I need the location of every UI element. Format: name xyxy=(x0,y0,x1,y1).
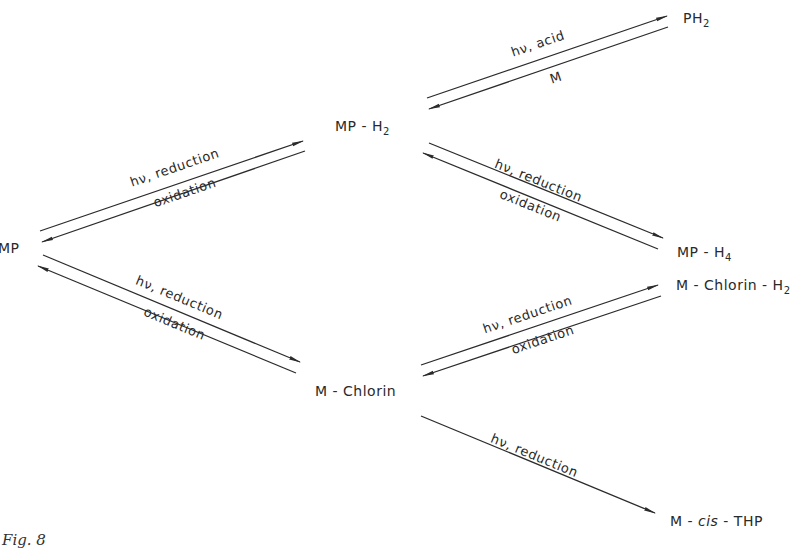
figure-caption: Fig. 8 xyxy=(2,531,46,549)
arrow-mp-to-mph2 xyxy=(40,141,303,231)
arrow-mchlorin-to-mchlorinh2 xyxy=(421,285,658,365)
node-m-chlorin-h2: M - Chlorin - H2 xyxy=(676,277,791,293)
node-m-chlorin: M - Chlorin xyxy=(315,383,396,399)
node-m-cis-thp: M - cis - THP xyxy=(670,513,763,529)
node-mp-h4: MP - H4 xyxy=(677,244,732,260)
node-mp-label: MP xyxy=(0,240,20,256)
node-mp-h2: MP - H2 xyxy=(335,118,390,134)
arrow-mph2-to-ph2 xyxy=(427,16,667,98)
node-ph2: PH2 xyxy=(683,10,710,26)
node-mp: MP xyxy=(0,240,20,256)
arrow-mp-to-mchlorin xyxy=(43,255,300,362)
